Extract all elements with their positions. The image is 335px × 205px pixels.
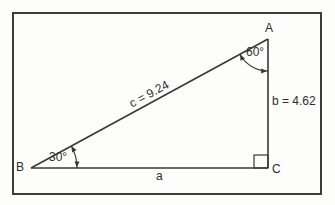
right-angle-marker: [254, 155, 268, 168]
vertex-a-label: A: [265, 22, 273, 34]
triangle-side-c-hypotenuse: [31, 39, 268, 168]
angle-arc-b-arrow-lower-icon: [75, 161, 80, 167]
diagram-page: A B C a b = 4.62 c = 9.24 30° 60°: [0, 0, 335, 205]
vertex-c-label: C: [272, 163, 281, 175]
side-b-label: b = 4.62: [272, 95, 316, 107]
side-a-label: a: [156, 170, 163, 182]
angle-arc-a-arrow-lower-icon: [261, 69, 267, 74]
angle-a-label: 60°: [246, 46, 264, 58]
angle-b-label: 30°: [49, 151, 67, 163]
vertex-b-label: B: [16, 161, 24, 173]
